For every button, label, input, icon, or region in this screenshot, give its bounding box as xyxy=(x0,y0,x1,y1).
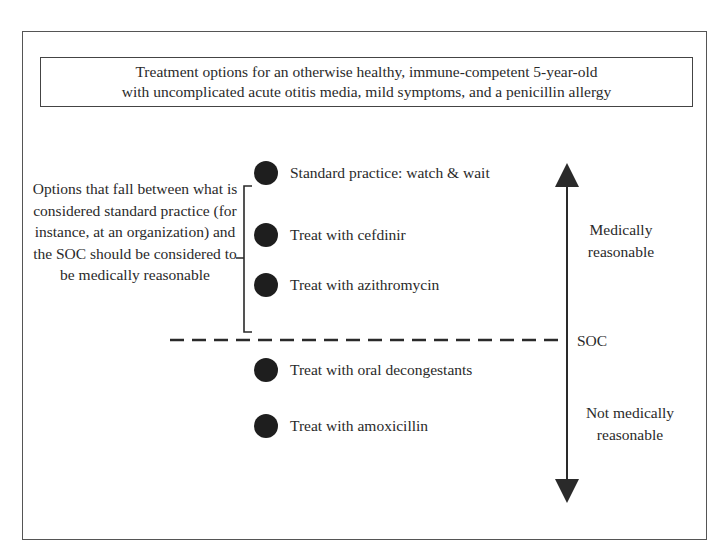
label-line: Medically xyxy=(578,219,664,241)
bullet-icon xyxy=(254,358,278,382)
option-oral-decongestants: Treat with oral decongestants xyxy=(254,358,472,382)
soc-label: SOC xyxy=(577,330,607,352)
option-label: Treat with cefdinir xyxy=(290,226,406,244)
option-label: Treat with amoxicillin xyxy=(290,417,428,435)
label-line: reasonable xyxy=(578,241,664,263)
not-medically-reasonable-label: Not medically reasonable xyxy=(578,402,682,446)
label-line: Not medically xyxy=(578,402,682,424)
option-label: Treat with oral decongestants xyxy=(290,361,472,379)
label-line: reasonable xyxy=(578,424,682,446)
medically-reasonable-label: Medically reasonable xyxy=(578,219,664,263)
option-label: Treat with azithromycin xyxy=(290,276,439,294)
bullet-icon xyxy=(254,273,278,297)
option-watch-and-wait: Standard practice: watch & wait xyxy=(254,161,490,185)
bullet-icon xyxy=(254,161,278,185)
option-cefdinir: Treat with cefdinir xyxy=(254,223,406,247)
bullet-icon xyxy=(254,223,278,247)
bullet-icon xyxy=(254,414,278,438)
arrow-down-icon xyxy=(555,479,579,503)
option-azithromycin: Treat with azithromycin xyxy=(254,273,439,297)
option-label: Standard practice: watch & wait xyxy=(290,164,490,182)
arrow-up-icon xyxy=(555,163,579,187)
bracket xyxy=(236,186,252,332)
option-amoxicillin: Treat with amoxicillin xyxy=(254,414,428,438)
